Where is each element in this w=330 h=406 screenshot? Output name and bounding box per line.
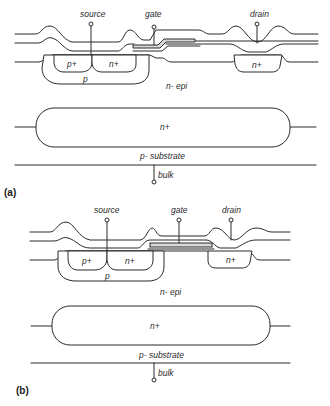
buried-layer-label: n+ — [160, 122, 170, 132]
drain-terminal-icon — [255, 22, 259, 26]
mosfet-cross-section-figure: source gate drain p+ n+ p n+ n- epi n+ p… — [0, 0, 330, 406]
p-plus-label: p+ — [81, 256, 92, 266]
gate-electrode — [150, 243, 212, 247]
source-label: source — [94, 205, 120, 215]
source-label: source — [80, 9, 106, 19]
drain-label: drain — [222, 205, 241, 215]
gate-terminal-icon — [152, 25, 156, 29]
drain-terminal-icon — [229, 218, 233, 222]
p-plus-label: p+ — [66, 59, 77, 69]
p-body-label: p — [104, 271, 110, 281]
substrate-label: p- substrate — [138, 350, 184, 360]
bulk-terminal-icon — [152, 378, 156, 382]
p-body-label: p — [82, 74, 88, 84]
n-plus-buried-layer — [52, 306, 270, 345]
gate-label: gate — [145, 9, 162, 19]
bulk-label: bulk — [158, 368, 174, 378]
n-plus-source-label: n+ — [109, 59, 119, 69]
panel-a: source gate drain p+ n+ p n+ n- epi n+ p… — [4, 9, 318, 198]
bulk-terminal-icon — [152, 180, 156, 184]
n-plus-source-label: n+ — [125, 256, 135, 266]
gate-label: gate — [171, 205, 188, 215]
source-terminal-icon — [105, 218, 109, 222]
n-plus-drain-label: n+ — [226, 255, 236, 265]
bulk-label: bulk — [158, 170, 174, 180]
panel-b: source gate drain p+ n+ p n+ n- epi n+ p… — [16, 205, 290, 396]
buried-layer-label: n+ — [150, 321, 160, 331]
n-epi-label: n- epi — [166, 81, 188, 91]
middle-oxide-right — [166, 44, 318, 52]
n-plus-drain-label: n+ — [252, 60, 262, 70]
substrate-label: p- substrate — [139, 151, 185, 161]
panel-b-caption: (b) — [16, 385, 29, 396]
panel-a-caption: (a) — [4, 187, 16, 198]
n-epi-label: n- epi — [160, 287, 182, 297]
gate-terminal-icon — [177, 218, 181, 222]
top-oxide-line — [30, 222, 290, 240]
source-terminal-icon — [89, 22, 93, 26]
drain-label: drain — [250, 9, 269, 19]
